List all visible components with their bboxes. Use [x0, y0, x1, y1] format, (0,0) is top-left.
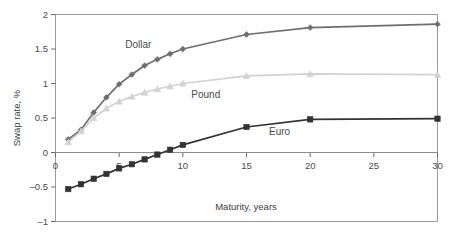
- data-point-marker: [244, 124, 249, 129]
- chart-figure: 21.510.50–0.5–1 051015202530 DollarPound…: [0, 0, 456, 248]
- swap-rate-line-chart: 21.510.50–0.5–1 051015202530 DollarPound…: [0, 0, 456, 248]
- y-tick-label: 0: [43, 147, 48, 158]
- series-label-dollar: Dollar: [125, 39, 152, 50]
- data-point-marker: [142, 157, 147, 162]
- data-point-marker: [129, 162, 134, 167]
- y-tick-label: –0.5: [30, 181, 49, 192]
- data-point-marker: [116, 166, 121, 171]
- data-point-marker: [167, 147, 172, 152]
- x-tick-label: 30: [432, 160, 443, 171]
- data-point-marker: [180, 142, 185, 147]
- x-tick-label: 0: [53, 160, 58, 171]
- x-tick-label: 25: [369, 160, 380, 171]
- y-tick-label: 1.5: [35, 43, 48, 54]
- x-tick-label: 10: [178, 160, 189, 171]
- data-point-marker: [307, 117, 312, 122]
- x-tick-label: 20: [305, 160, 316, 171]
- x-tick-label: 15: [241, 160, 252, 171]
- x-axis-title: Maturity, years: [215, 201, 277, 212]
- data-point-marker: [78, 182, 83, 187]
- data-point-marker: [435, 116, 440, 121]
- data-point-marker: [104, 171, 109, 176]
- y-tick-label: 2: [43, 9, 48, 20]
- y-axis-title: Swap rate, %: [11, 89, 22, 146]
- data-point-marker: [91, 176, 96, 181]
- series-label-euro: Euro: [269, 126, 291, 137]
- y-tick-label: 1: [43, 78, 48, 89]
- y-tick-label: 0.5: [35, 112, 48, 123]
- data-point-marker: [155, 152, 160, 157]
- series-label-pound: Pound: [191, 89, 220, 100]
- data-point-marker: [66, 186, 71, 191]
- y-tick-label: –1: [37, 216, 48, 227]
